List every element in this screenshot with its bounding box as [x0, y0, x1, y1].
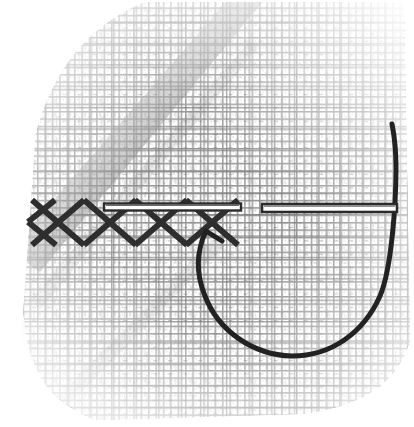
needle-bar-right	[262, 204, 397, 212]
needlework-illustration-canvas	[0, 0, 414, 427]
illustration-figure: Cross stitch worked on canvas with curve…	[0, 0, 414, 427]
needle-bar-over-stitches	[104, 204, 241, 211]
